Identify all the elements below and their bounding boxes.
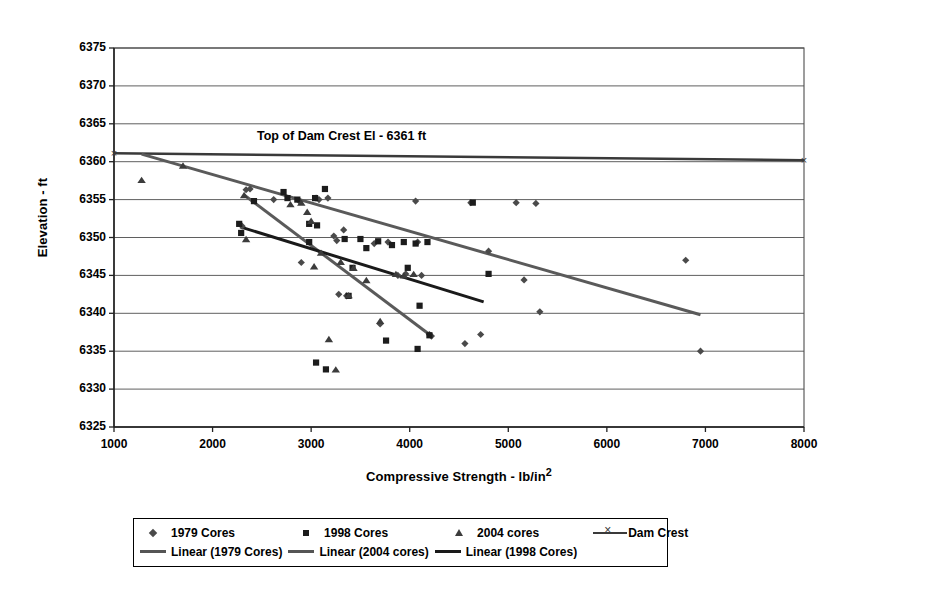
legend-item[interactable]: 1998 Cores [293,526,388,540]
legend-diamond-icon [140,530,166,536]
legend-item[interactable]: Dam Crest [593,526,688,540]
data-point-2004-cores [376,318,384,324]
y-tick-label: 6375 [48,40,106,54]
data-point-1998-cores [323,366,329,372]
legend-row-primary: 1979 Cores1998 Cores2004 coresDam Crest [140,523,661,542]
data-point-1998-cores [313,359,319,365]
data-point-1998-cores [314,222,320,228]
chart-legend: 1979 Cores1998 Cores2004 coresDam Crest … [133,518,668,567]
legend-item[interactable]: 2004 cores [446,526,539,540]
data-point-1998-cores [251,198,257,204]
data-point-1998-cores [424,239,430,245]
legend-item-label: 1979 Cores [171,526,235,540]
y-tick-label: 6360 [48,154,106,168]
data-point-1979-cores [536,308,543,315]
dam-crest-endpoint-marker: × [111,147,117,159]
data-point-2004-cores [409,271,417,277]
data-point-1998-cores [405,265,411,271]
legend-item-label: 2004 cores [477,526,539,540]
data-point-1998-cores [342,236,348,242]
legend-triangle-icon [446,529,472,536]
legend-item-label: Linear (1979 Cores) [171,545,282,559]
data-point-2004-cores [240,192,248,198]
legend-item-label: Linear (2004 cores) [319,545,428,559]
legend-line-icon [288,550,314,553]
legend-item[interactable]: 1979 Cores [140,526,235,540]
data-point-1979-cores [520,276,527,283]
trendline-dam-crest [114,153,804,160]
data-point-1979-cores [324,194,331,201]
data-point-1998-cores [312,195,318,201]
data-point-1998-cores [426,332,432,338]
x-tick-label: 8000 [774,437,834,451]
data-point-1979-cores [270,196,277,203]
legend-item-label: Linear (1998 Cores) [466,545,577,559]
y-tick-label: 6325 [48,419,106,433]
data-point-1998-cores [322,186,328,192]
data-point-1998-cores [357,236,363,242]
data-point-1998-cores [416,303,422,309]
data-point-1998-cores [383,337,389,343]
legend-item-label: Dam Crest [628,526,688,540]
chart-container: ×× Elevation - ft Compressive Strength -… [0,0,927,600]
legend-row-trendlines: Linear (1979 Cores)Linear (2004 cores)Li… [140,542,661,561]
y-tick-label: 6370 [48,78,106,92]
data-point-1998-cores [294,197,300,203]
annotation-top-of-dam-crest: Top of Dam Crest El - 6361 ft [257,129,426,143]
legend-item[interactable]: Linear (1979 Cores) [140,545,282,559]
legend-dam-crest-icon [593,528,627,537]
data-point-2004-cores [303,209,311,215]
data-point-2004-cores [242,236,250,242]
x-tick-label: 5000 [478,437,538,451]
data-point-1998-cores [238,230,244,236]
data-point-2004-cores [362,277,370,283]
data-point-1998-cores [363,245,369,251]
x-axis-title-superscript: 2 [546,466,552,478]
legend-line-icon [140,550,166,553]
data-point-2004-cores [325,336,333,342]
x-tick-label: 4000 [380,437,440,451]
trendline-linear-1979-cores [142,154,701,315]
data-point-1998-cores [284,195,290,201]
data-point-1998-cores [375,238,381,244]
y-tick-label: 6345 [48,267,106,281]
y-tick-label: 6350 [48,230,106,244]
data-point-2004-cores [137,177,145,183]
legend-item[interactable]: Linear (1998 Cores) [435,545,577,559]
data-point-1979-cores [532,200,539,207]
data-point-1998-cores [236,221,242,227]
y-tick-label: 6340 [48,305,106,319]
data-point-2004-cores [332,366,340,372]
data-point-1998-cores [413,240,419,246]
x-tick-label: 2000 [183,437,243,451]
data-point-1979-cores [418,272,425,279]
legend-item[interactable]: Linear (2004 cores) [288,545,428,559]
data-point-1979-cores [513,199,520,206]
data-point-1998-cores [401,239,407,245]
data-point-1979-cores [412,198,419,205]
y-tick-label: 6330 [48,381,106,395]
data-point-1979-cores [298,259,305,266]
x-axis-title-text: Compressive Strength - lb/in [366,469,546,484]
data-point-2004-cores [310,263,318,269]
y-tick-label: 6355 [48,192,106,206]
data-point-1998-cores [389,242,395,248]
x-tick-label: 1000 [84,437,144,451]
data-point-1979-cores [682,257,689,264]
data-point-1979-cores [461,340,468,347]
legend-line-thick-icon [435,550,461,553]
y-tick-label: 6335 [48,343,106,357]
legend-square-icon [293,530,319,536]
data-point-1998-cores [280,189,286,195]
dam-crest-endpoint-marker: × [801,154,807,166]
scatter-plot-canvas: ×× [0,0,927,600]
data-point-2004-cores [286,201,294,207]
data-point-1998-cores [470,200,476,206]
x-tick-label: 7000 [675,437,735,451]
y-tick-label: 6365 [48,116,106,130]
legend-item-label: 1998 Cores [324,526,388,540]
x-axis-title: Compressive Strength - lb/in2 [114,466,804,484]
data-point-1998-cores [415,346,421,352]
data-point-1979-cores [335,291,342,298]
data-point-1979-cores [340,226,347,233]
